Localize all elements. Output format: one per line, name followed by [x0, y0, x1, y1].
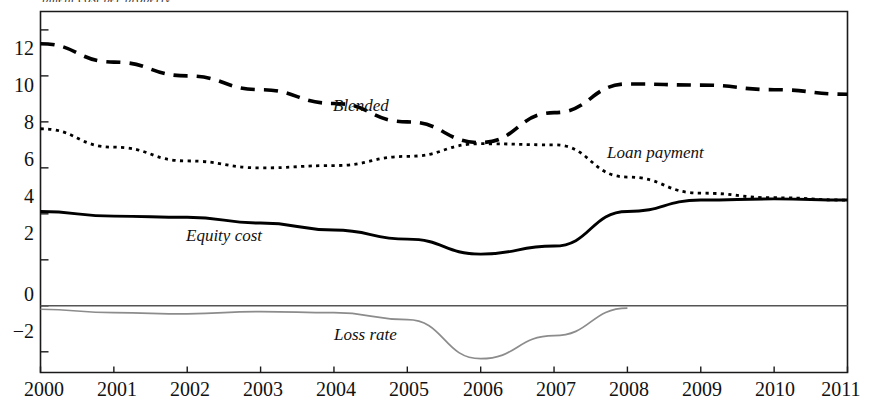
series-line-equity-cost: [41, 199, 848, 254]
series-label-blended: Blended: [333, 96, 389, 116]
series-line-blended: [41, 44, 848, 143]
line-chart-plot: [0, 0, 869, 411]
y-tick-marks: [41, 30, 49, 352]
series-label-loss-rate: Loss rate: [334, 325, 397, 345]
plot-frame: [41, 12, 848, 373]
x-tick-marks: [41, 367, 848, 373]
figure-container: pment cost per property, 12 10 8 6 4 2 0…: [0, 0, 869, 411]
series-line-loan-payment: [41, 129, 848, 200]
series-label-equity-cost: Equity cost: [186, 226, 262, 246]
series-label-loan-payment: Loan payment: [607, 143, 704, 163]
